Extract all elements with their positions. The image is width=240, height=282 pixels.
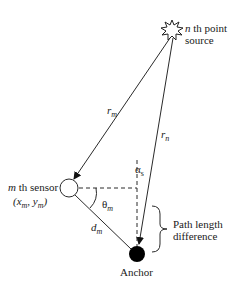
r-n-sub: n [165,134,169,143]
r-n-label: rn [161,128,169,145]
theta-sub: m [107,204,113,213]
sensor-coords: (xm, ym) [13,195,47,212]
sensor-label-line1: th sensor [16,181,58,193]
anchor-dot [129,246,145,262]
d-m-label: dm [91,221,102,238]
coords-y: , y [27,195,37,207]
r-m-label: rm [107,104,117,121]
theta-arc [90,188,96,208]
source-label-line2: source [185,34,214,46]
alpha-s-label: αs [135,163,144,180]
path-length-line1: Path length [173,218,223,230]
d-m-sub: m [97,227,103,236]
alpha-sub: s [141,169,144,178]
sensor-label-m: m [8,181,16,193]
anchor-label: Anchor [120,266,153,278]
sensor-circle [60,179,78,197]
source-label-line1: th point [191,22,228,34]
r-m-line [74,38,170,179]
source-label: n th point source [185,22,227,46]
theta-m-label: θm [102,198,113,215]
path-length-line2: difference [173,230,217,242]
point-source-icon [161,20,183,40]
coords-close: ) [44,195,48,207]
sensor-label: m th sensor [8,181,58,193]
coords-x: (x [13,195,22,207]
path-length-label: Path length difference [173,218,223,242]
r-m-sub: m [111,110,117,119]
path-length-brace [152,206,167,252]
